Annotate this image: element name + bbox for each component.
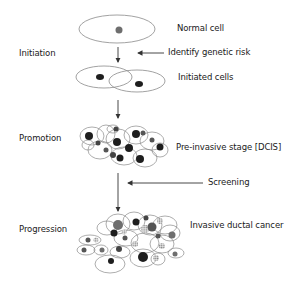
label-normal-cell: Normal cell [177, 23, 224, 33]
dcis-cluster [80, 125, 168, 167]
stage-promotion: Promotion [19, 133, 61, 143]
invasive-cluster [77, 212, 184, 273]
label-initiated-cells: Initiated cells [178, 72, 233, 82]
stage-initiation: Initiation [19, 48, 55, 58]
label-dcis: Pre-invasive stage [DCIS] [176, 142, 281, 152]
invasive-nuclei [82, 216, 178, 265]
label-identify-genetic-risk: Identify genetic risk [168, 47, 250, 57]
normal-cell [79, 15, 155, 43]
label-screening: Screening [208, 177, 249, 187]
initiated-cells [76, 66, 165, 92]
label-invasive-ductal-cancer: Invasive ductal cancer [190, 220, 283, 230]
stage-progression: Progression [19, 224, 67, 234]
